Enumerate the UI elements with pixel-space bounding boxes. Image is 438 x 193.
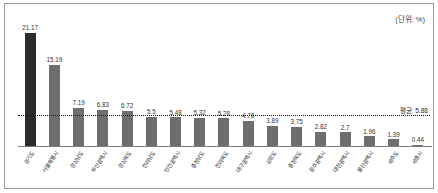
x-label-slot: 충청남도 (188, 148, 212, 193)
bar-slot[interactable]: 6.83 (91, 28, 115, 147)
x-label-slot: 서울특별시 (42, 148, 66, 193)
bar[interactable] (315, 132, 326, 147)
x-axis-label: 전라북도 (213, 150, 231, 170)
x-axis-labels: 경기도서울특별시경상남도부산광역시경상북도전라남도인천광역시충청남도전라북도대구… (18, 148, 430, 193)
x-label-slot: 경상북도 (115, 148, 139, 193)
bar-slot[interactable]: 21.17 (18, 28, 42, 147)
bar-value-label: 1.39 (387, 132, 399, 138)
bar-series: 21.1715.197.196.836.725.55.485.325.284.7… (18, 28, 430, 147)
x-label-slot: 인천광역시 (163, 148, 187, 193)
axis-baseline (18, 146, 432, 147)
bar[interactable] (340, 132, 351, 147)
bar-value-label: 6.72 (121, 103, 133, 109)
bar-slot[interactable]: 5.5 (139, 28, 163, 147)
x-axis-label: 대전광역시 (331, 150, 351, 174)
x-axis-label: 경기도 (22, 150, 37, 166)
bar[interactable] (49, 65, 60, 147)
x-label-slot: 전라남도 (139, 148, 163, 193)
average-label: 평균: 5.88 (400, 105, 429, 115)
bar-slot[interactable]: 3.75 (285, 28, 309, 147)
x-label-slot: 대구광역시 (236, 148, 260, 193)
bar[interactable] (243, 121, 254, 147)
bar-slot[interactable]: 1.39 (382, 28, 406, 147)
bar[interactable] (25, 33, 36, 148)
bar[interactable] (146, 117, 157, 147)
plot-area: 21.1715.197.196.836.725.55.485.325.284.7… (18, 28, 430, 147)
bar-value-label: 15.19 (46, 57, 62, 63)
x-label-slot: 울산광역시 (357, 148, 381, 193)
bar-slot[interactable]: 3.89 (260, 28, 284, 147)
bar-slot[interactable]: 2.82 (309, 28, 333, 147)
bar-value-label: 6.83 (97, 102, 109, 108)
bar[interactable] (218, 118, 229, 147)
bar-value-label: 21.17 (22, 25, 38, 31)
x-axis-label: 제주도 (385, 150, 400, 166)
x-label-slot: 부산광역시 (91, 148, 115, 193)
x-axis-label: 충청북도 (286, 150, 304, 170)
x-axis-label: 세종시 (410, 150, 425, 166)
bar-slot[interactable]: 2.7 (333, 28, 357, 147)
bar[interactable] (267, 126, 278, 147)
unit-note: (단위: %) (395, 13, 425, 24)
bar-value-label: 2.7 (341, 125, 350, 131)
bar[interactable] (73, 108, 84, 147)
x-axis-label: 경상북도 (116, 150, 134, 170)
x-label-slot: 경상남도 (66, 148, 90, 193)
bar-slot[interactable]: 0.44 (406, 28, 430, 147)
bar-slot[interactable]: 4.78 (236, 28, 260, 147)
bar-slot[interactable]: 5.48 (163, 28, 187, 147)
bar-slot[interactable]: 5.32 (188, 28, 212, 147)
x-axis-label: 충청남도 (189, 150, 207, 170)
bar-slot[interactable]: 1.96 (357, 28, 381, 147)
average-line (18, 115, 430, 116)
x-axis-label: 부산광역시 (89, 150, 109, 174)
bar-value-label: 2.82 (315, 124, 327, 130)
bar-slot[interactable]: 6.72 (115, 28, 139, 147)
bar-value-label: 7.19 (72, 100, 84, 106)
x-axis-label: 강원도 (264, 150, 279, 166)
x-axis-label: 대구광역시 (234, 150, 254, 174)
x-axis-label: 인천광역시 (162, 150, 182, 174)
x-label-slot: 전라북도 (212, 148, 236, 193)
x-label-slot: 제주도 (382, 148, 406, 193)
x-axis-label: 울산광역시 (356, 150, 376, 174)
bar[interactable] (291, 127, 302, 147)
chart-screenshot: (단위: %) 21.1715.197.196.836.725.55.485.3… (0, 0, 438, 193)
bar-slot[interactable]: 15.19 (42, 28, 66, 147)
bar-value-label: 3.89 (266, 118, 278, 124)
x-label-slot: 광주광역시 (309, 148, 333, 193)
bar-value-label: 1.96 (363, 129, 375, 135)
chart-frame: (단위: %) 21.1715.197.196.836.725.55.485.3… (4, 3, 434, 189)
bar-slot[interactable]: 5.28 (212, 28, 236, 147)
x-axis-label: 전라남도 (140, 150, 158, 170)
x-axis-label: 서울특별시 (41, 150, 61, 174)
bar-value-label: 0.44 (412, 137, 424, 143)
bar-slot[interactable]: 7.19 (66, 28, 90, 147)
bar-value-label: 3.75 (291, 119, 303, 125)
x-axis-label: 경상남도 (68, 150, 86, 170)
x-label-slot: 세종시 (406, 148, 430, 193)
x-label-slot: 경기도 (18, 148, 42, 193)
x-axis-label: 광주광역시 (307, 150, 327, 174)
bar[interactable] (194, 118, 205, 147)
x-label-slot: 대전광역시 (333, 148, 357, 193)
bar[interactable] (170, 117, 181, 147)
x-label-slot: 강원도 (260, 148, 284, 193)
x-label-slot: 충청북도 (285, 148, 309, 193)
